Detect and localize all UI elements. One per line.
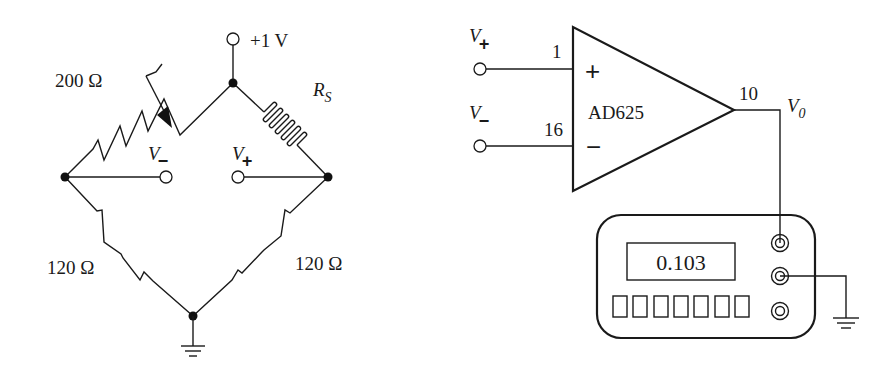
bridge-ground-icon <box>181 316 205 356</box>
minus-input-label: V− <box>469 102 490 131</box>
meter-button-6[interactable] <box>715 296 729 317</box>
minus-input-symbol: − <box>586 132 601 162</box>
pin-1-label: 1 <box>552 41 562 62</box>
v-plus-label: V+ <box>232 143 253 171</box>
output-wire <box>734 110 780 243</box>
strain-gauge-rs <box>263 102 306 145</box>
amplifier-name: AD625 <box>588 102 644 123</box>
variable-resistor-arrow-tail <box>146 64 162 76</box>
right-node <box>324 173 333 182</box>
v-plus-terminal <box>232 171 244 183</box>
meter-button-3[interactable] <box>654 296 668 317</box>
meter-button-2[interactable] <box>633 296 647 317</box>
meter-button-5[interactable] <box>694 296 708 317</box>
supply-label: +1 V <box>250 30 289 51</box>
minus-input-terminal <box>474 140 486 152</box>
left-node <box>61 173 70 182</box>
multimeter: 0.103 <box>597 215 859 338</box>
multimeter-buttons <box>613 296 749 317</box>
plus-input-label: V+ <box>469 25 490 54</box>
variable-resistor-arrow-shaft <box>146 76 165 113</box>
resistor-120-right-label: 120 Ω <box>295 253 342 274</box>
resistor-120-right <box>193 177 328 316</box>
aux-jack-bottom[interactable] <box>772 303 789 320</box>
circuit-diagram: +1 V 200 Ω RS 120 Ω 120 Ω V− V+ <box>0 0 894 366</box>
v-minus-label: V− <box>148 143 169 171</box>
v-minus-terminal <box>160 171 172 183</box>
wheatstone-bridge: +1 V 200 Ω RS 120 Ω 120 Ω V− V+ <box>47 30 342 356</box>
pin-16-label: 16 <box>544 119 563 140</box>
top-node <box>229 79 238 88</box>
meter-ground-wire <box>780 276 846 318</box>
resistor-120-left-label: 120 Ω <box>47 257 94 278</box>
output-label: V0 <box>787 95 806 121</box>
meter-ground-icon <box>833 318 859 328</box>
meter-button-1[interactable] <box>613 296 627 317</box>
plus-input-terminal <box>474 63 486 75</box>
plus-input-symbol: + <box>585 56 600 86</box>
pin-10-label: 10 <box>739 83 758 104</box>
meter-button-7[interactable] <box>735 296 749 317</box>
multimeter-reading: 0.103 <box>656 250 706 275</box>
strain-gauge-label: RS <box>312 79 332 105</box>
strain-gauge-lead-top <box>233 83 264 112</box>
resistor-120-left <box>65 177 193 316</box>
strain-gauge-lead-bottom <box>297 145 328 177</box>
variable-resistor-label: 200 Ω <box>55 70 102 91</box>
instrumentation-amplifier: AD625 + − 1 V+ 16 V− 10 V0 <box>469 25 806 243</box>
supply-terminal <box>227 33 239 45</box>
meter-button-4[interactable] <box>674 296 688 317</box>
